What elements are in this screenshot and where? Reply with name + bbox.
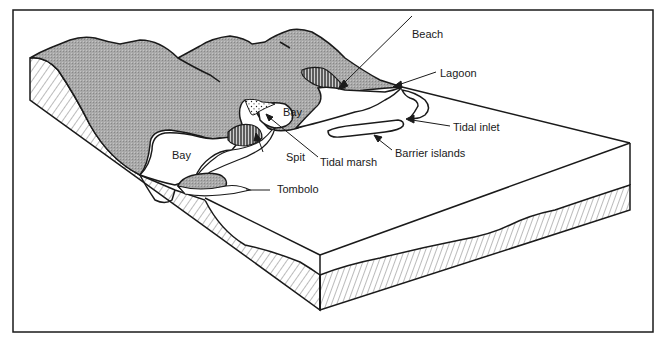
label-tidal-marsh: Tidal marsh [320, 157, 377, 168]
label-bay-upper: Bay [283, 107, 302, 118]
label-lagoon: Lagoon [440, 68, 477, 79]
label-beach: Beach [412, 29, 443, 40]
label-spit: Spit [286, 152, 305, 163]
label-tidal-inlet: Tidal inlet [453, 122, 500, 133]
label-barrier-islands: Barrier islands [395, 148, 465, 159]
label-tombolo: Tombolo [277, 184, 319, 195]
coastal-landforms-diagram [0, 0, 665, 346]
label-bay-lower: Bay [172, 150, 191, 161]
